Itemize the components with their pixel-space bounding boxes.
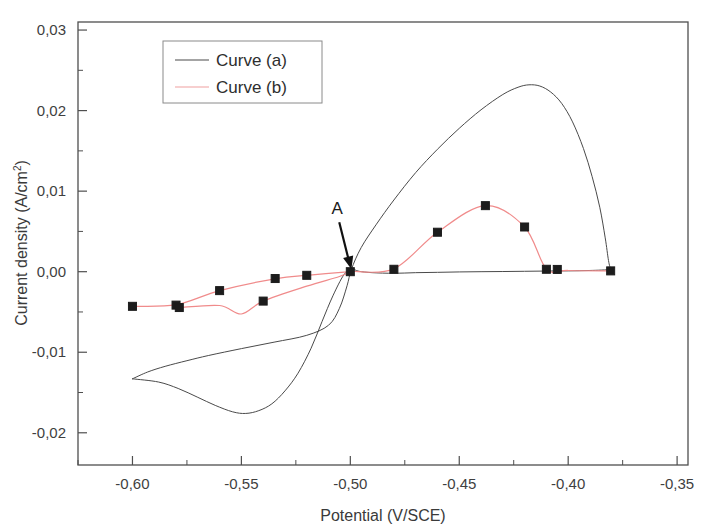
annotation-label-a: A [332, 199, 344, 218]
data-marker [542, 265, 550, 273]
chart-figure: -0,60-0,55-0,50-0,45-0,40-0,35 0,030,020… [0, 0, 706, 530]
x-tick-label: -0,40 [551, 475, 585, 492]
x-tick-label: -0,35 [660, 475, 694, 492]
data-marker [216, 287, 224, 295]
data-marker [607, 267, 615, 275]
legend-label-curve-b: Curve (b) [216, 78, 287, 97]
data-marker [303, 271, 311, 279]
cyclic-voltammogram-chart: -0,60-0,55-0,50-0,45-0,40-0,35 0,030,020… [0, 0, 706, 530]
chart-legend[interactable]: Curve (a) Curve (b) [163, 41, 322, 103]
y-tick-label: 0,00 [37, 263, 66, 280]
x-tick-label: -0,55 [224, 475, 258, 492]
y-axis-title-main: Current density (A/cm [13, 171, 30, 326]
x-tick-label: -0,60 [115, 475, 149, 492]
y-tick-label: 0,01 [37, 182, 66, 199]
data-marker [128, 302, 136, 310]
x-tick-label: -0,45 [442, 475, 476, 492]
y-tick-label: 0,02 [37, 102, 66, 119]
data-marker [175, 304, 183, 312]
data-marker [259, 297, 267, 305]
y-tick-label: -0,02 [32, 424, 66, 441]
data-marker [433, 228, 441, 236]
x-axis-title: Potential (V/SCE) [320, 507, 445, 524]
data-marker [346, 268, 354, 276]
svg-text:Current density (A/cm2): Current density (A/cm2) [12, 160, 30, 326]
legend-label-curve-a: Curve (a) [216, 51, 287, 70]
y-tick-label: 0,03 [37, 21, 66, 38]
y-tick-label: -0,01 [32, 343, 66, 360]
data-marker [271, 275, 279, 283]
data-marker [390, 265, 398, 273]
data-marker [521, 223, 529, 231]
x-tick-label: -0,50 [333, 475, 367, 492]
y-axis-title: Current density (A/cm2) [12, 160, 30, 326]
data-marker [481, 202, 489, 210]
data-marker [553, 265, 561, 273]
y-axis-title-tail: ) [13, 160, 30, 165]
